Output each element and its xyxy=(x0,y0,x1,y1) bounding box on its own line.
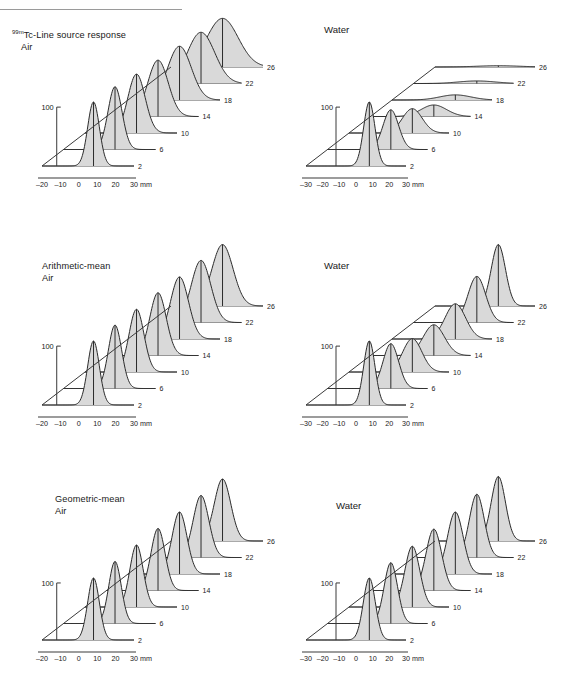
depth-label-14: 14 xyxy=(203,352,211,359)
x-tick-10: 10 xyxy=(369,654,377,663)
depth-profile-18: 18 xyxy=(392,95,504,104)
depth-label-26: 26 xyxy=(539,64,547,71)
x-tick--20: –20 xyxy=(36,419,48,428)
x-axis-unit: mm xyxy=(412,419,424,428)
depth-label-2: 2 xyxy=(138,163,142,170)
depth-label-14: 14 xyxy=(203,587,211,594)
x-tick--10: –10 xyxy=(54,419,66,428)
x-tick-0: 0 xyxy=(77,654,81,663)
depth-label-10: 10 xyxy=(181,369,189,376)
depth-label-18: 18 xyxy=(224,571,232,578)
x-tick-10: 10 xyxy=(93,654,101,663)
depth-label-26: 26 xyxy=(267,303,275,310)
x-tick-20: 20 xyxy=(112,654,120,663)
depth-label-10: 10 xyxy=(453,130,461,137)
depth-label-2: 2 xyxy=(410,402,414,409)
depth-label-10: 10 xyxy=(453,369,461,376)
y-axis-label: 100 xyxy=(321,103,333,112)
x-tick-0: 0 xyxy=(354,180,358,189)
x-tick--10: –10 xyxy=(333,654,345,663)
depth-profile-26: 26 xyxy=(435,64,547,71)
x-tick--10: –10 xyxy=(54,180,66,189)
x-axis-unit: mm xyxy=(140,180,152,189)
depth-label-10: 10 xyxy=(181,604,189,611)
depth-label-18: 18 xyxy=(496,571,504,578)
panel-row2-air: Arithmetic-mean Air 262218141062100–20–1… xyxy=(0,245,285,450)
depth-label-6: 6 xyxy=(160,146,164,153)
x-tick-0: 0 xyxy=(77,180,81,189)
x-tick-30: 30 xyxy=(402,419,410,428)
depth-label-10: 10 xyxy=(453,604,461,611)
depth-label-14: 14 xyxy=(203,113,211,120)
x-tick-10: 10 xyxy=(93,180,101,189)
x-axis-unit: mm xyxy=(412,654,424,663)
depth-label-6: 6 xyxy=(432,620,436,627)
depth-label-2: 2 xyxy=(138,402,142,409)
x-tick-30: 30 xyxy=(402,180,410,189)
depth-label-2: 2 xyxy=(410,637,414,644)
depth-profile-26: 26 xyxy=(435,245,547,310)
depth-label-6: 6 xyxy=(432,146,436,153)
x-tick-30: 30 xyxy=(130,654,138,663)
waterfall-plot-row2-water: 262218141062100–30–20–100102030mm xyxy=(276,245,561,450)
depth-label-14: 14 xyxy=(475,352,483,359)
x-tick-10: 10 xyxy=(369,419,377,428)
depth-label-14: 14 xyxy=(475,113,483,120)
depth-label-18: 18 xyxy=(496,97,504,104)
x-tick--30: –30 xyxy=(300,180,312,189)
depth-label-6: 6 xyxy=(160,620,164,627)
x-tick-30: 30 xyxy=(402,654,410,663)
depth-label-22: 22 xyxy=(246,319,254,326)
waterfall-plot-row3-water: 262218141062100–30–20–100102030mm xyxy=(276,475,561,680)
x-tick--10: –10 xyxy=(333,419,345,428)
x-tick-20: 20 xyxy=(112,419,120,428)
depth-label-6: 6 xyxy=(160,385,164,392)
x-tick-20: 20 xyxy=(385,180,393,189)
x-tick--10: –10 xyxy=(54,654,66,663)
x-tick-0: 0 xyxy=(354,654,358,663)
x-tick-10: 10 xyxy=(93,419,101,428)
top-divider-rule xyxy=(0,9,182,10)
depth-label-10: 10 xyxy=(181,130,189,137)
x-tick--20: –20 xyxy=(317,654,329,663)
depth-label-14: 14 xyxy=(475,587,483,594)
y-axis-label: 100 xyxy=(321,342,333,351)
x-tick-20: 20 xyxy=(385,419,393,428)
depth-label-2: 2 xyxy=(138,637,142,644)
x-tick-20: 20 xyxy=(112,180,120,189)
x-tick--30: –30 xyxy=(300,419,312,428)
waterfall-plot-row3-air: 262218141062100–20–100102030mm xyxy=(0,475,285,680)
x-tick--10: –10 xyxy=(333,180,345,189)
panel-row2-water: Water 262218141062100–30–20–100102030mm xyxy=(276,245,561,450)
waterfall-plot-row1-water: 262218141062100–30–20–100102030mm xyxy=(276,18,561,223)
x-tick--20: –20 xyxy=(317,419,329,428)
depth-label-18: 18 xyxy=(224,336,232,343)
x-tick--30: –30 xyxy=(300,654,312,663)
x-axis-unit: mm xyxy=(412,180,424,189)
waterfall-plot-row2-air: 262218141062100–20–100102030mm xyxy=(0,245,285,450)
depth-label-22: 22 xyxy=(246,554,254,561)
x-tick-30: 30 xyxy=(130,180,138,189)
y-axis-label: 100 xyxy=(41,103,53,112)
depth-label-22: 22 xyxy=(518,80,526,87)
x-tick-30: 30 xyxy=(130,419,138,428)
panel-row1-water: Water 262218141062100–30–20–100102030mm xyxy=(276,18,561,223)
depth-label-2: 2 xyxy=(410,163,414,170)
x-tick--20: –20 xyxy=(36,180,48,189)
x-tick-10: 10 xyxy=(369,180,377,189)
y-axis-label: 100 xyxy=(41,342,53,351)
figure-root: 99mTc-Line source response Air 262218141… xyxy=(0,0,571,680)
depth-label-26: 26 xyxy=(539,303,547,310)
x-tick--20: –20 xyxy=(317,180,329,189)
waterfall-plot-row1-air: 262218141062100–20–100102030mm xyxy=(0,18,285,223)
x-axis-unit: mm xyxy=(140,654,152,663)
depth-label-26: 26 xyxy=(267,538,275,545)
panel-row1-air: 99mTc-Line source response Air 262218141… xyxy=(0,18,285,223)
x-tick-0: 0 xyxy=(77,419,81,428)
depth-label-6: 6 xyxy=(432,385,436,392)
x-tick--20: –20 xyxy=(36,654,48,663)
depth-label-22: 22 xyxy=(246,80,254,87)
panel-row3-air: Geometric-mean Air 262218141062100–20–10… xyxy=(0,475,285,680)
depth-profile-22: 22 xyxy=(414,80,526,87)
x-tick-20: 20 xyxy=(385,654,393,663)
